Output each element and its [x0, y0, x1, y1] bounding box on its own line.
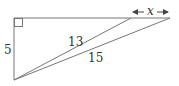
label-x: x	[147, 4, 154, 18]
triangle-diagram: 5 13 15 x	[0, 0, 179, 86]
right-angle-marker	[15, 19, 23, 27]
hypotenuse-13	[14, 18, 131, 80]
label-13: 13	[68, 35, 83, 49]
label-5: 5	[4, 43, 12, 57]
hypotenuse-15	[14, 18, 170, 80]
label-15: 15	[88, 51, 103, 65]
